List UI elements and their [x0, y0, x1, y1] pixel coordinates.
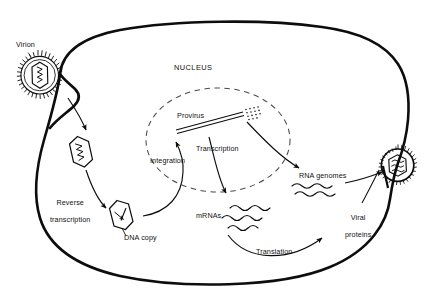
label-mrnas: mRNAs: [196, 212, 221, 221]
mrna-strands: [222, 206, 270, 231]
nuclear-envelope: [146, 88, 290, 192]
label-viral-proteins: Viral proteins: [334, 205, 374, 248]
label-dna-copy: DNA copy: [124, 234, 157, 243]
label-translation: Translation: [256, 248, 292, 257]
reverse-transcription-line-2: transcription: [50, 215, 90, 224]
integration-arrow: [143, 142, 183, 216]
rna-genome-arrow: [247, 122, 299, 168]
dna-copy-capsid: [110, 201, 134, 230]
label-provirus: Provirus: [177, 112, 204, 121]
reverse-transcription-line-1: Reverse: [56, 198, 83, 207]
viral-protein-leader: [362, 170, 379, 203]
rna-genome-strands: [292, 184, 335, 197]
label-virion: Virion: [16, 41, 35, 50]
virion-leader: [28, 53, 31, 57]
viral-proteins-line-2: proteins: [345, 230, 371, 239]
free-virion: [17, 50, 63, 99]
label-reverse-transcription: Reverse transcription: [37, 190, 95, 233]
label-transcription: Transcription: [196, 145, 239, 154]
label-rna-genomes: RNA genomes: [299, 172, 346, 181]
uncoated-capsid: [70, 137, 93, 168]
label-nucleus: NUCLEUS: [174, 64, 212, 73]
genome-to-budding-arrow: [345, 172, 382, 183]
retrovirus-replication-diagram: Virion NUCLEUS Provirus Integration Tran…: [0, 0, 428, 292]
viral-proteins-line-1: Viral: [351, 213, 366, 222]
budding-virion: [379, 144, 417, 188]
label-integration: Integration: [150, 157, 185, 166]
